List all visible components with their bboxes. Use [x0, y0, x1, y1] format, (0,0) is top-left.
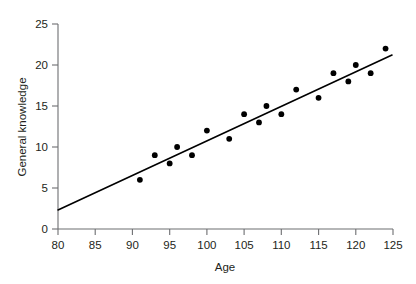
data-point: [278, 111, 284, 117]
data-point: [204, 128, 210, 134]
y-tick-label: 10: [35, 141, 48, 153]
y-axis-tick-labels: 0 5 10 15 20 25: [35, 18, 48, 235]
x-tick-label: 85: [89, 239, 102, 251]
x-tick-label: 100: [197, 239, 216, 251]
data-point: [167, 161, 173, 167]
data-point: [368, 70, 374, 76]
data-point: [331, 70, 337, 76]
data-point: [152, 152, 158, 158]
data-point: [189, 152, 195, 158]
y-tick-label: 5: [42, 182, 48, 194]
data-point: [137, 177, 143, 183]
data-point: [383, 46, 389, 52]
data-point: [316, 95, 322, 101]
scatter-plot-figure: 0 5 10 15 20 25 80 85 90 95 100 105 110 …: [0, 0, 416, 284]
x-tick-label: 95: [163, 239, 176, 251]
x-tick-label: 110: [272, 239, 290, 251]
x-tick-label: 125: [383, 239, 402, 251]
y-tick-label: 25: [35, 18, 48, 30]
data-point: [293, 87, 299, 93]
data-point: [226, 136, 232, 142]
data-point: [353, 62, 359, 68]
x-tick-label: 115: [309, 239, 327, 251]
data-point: [241, 111, 247, 117]
y-tick-label: 20: [35, 59, 48, 71]
y-tick-label: 15: [35, 100, 48, 112]
data-point: [345, 79, 351, 85]
data-point: [256, 120, 262, 126]
x-axis-tick-labels: 80 85 90 95 100 105 110 115 120 125: [52, 239, 403, 251]
data-point: [174, 144, 180, 150]
y-axis-title: General knowledge: [16, 77, 28, 176]
regression-line: [58, 55, 392, 210]
y-axis-ticks: [52, 24, 58, 229]
axes-spines: [58, 24, 393, 229]
x-tick-label: 120: [346, 239, 365, 251]
y-tick-label: 0: [42, 223, 48, 235]
x-tick-label: 90: [126, 239, 139, 251]
x-axis-ticks: [58, 229, 393, 235]
x-axis-title: Age: [215, 261, 235, 273]
x-tick-label: 105: [235, 239, 254, 251]
x-tick-label: 80: [52, 239, 65, 251]
plot-canvas: 0 5 10 15 20 25 80 85 90 95 100 105 110 …: [0, 0, 416, 284]
data-point: [264, 103, 270, 109]
